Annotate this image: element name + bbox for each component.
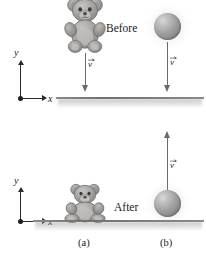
x-axis-before <box>21 98 43 100</box>
teddy-bear-before <box>63 0 107 56</box>
velocity-label-bear-before: v <box>88 60 92 69</box>
origin-marker-after <box>18 219 23 224</box>
velocity-arrow-head-ball-before <box>164 85 170 92</box>
velocity-label-ball-after: v <box>170 161 174 170</box>
x-axis-label-before: x <box>48 94 52 104</box>
velocity-arrow-shaft-ball-before <box>167 42 169 87</box>
y-axis-label-before: y <box>14 48 18 58</box>
ground-shadow-before <box>58 99 202 108</box>
ball-after <box>154 190 181 217</box>
ball-before <box>154 13 181 40</box>
phase-label-before: Before <box>106 23 137 35</box>
velocity-label-text: v <box>170 57 174 67</box>
velocity-label-text: v <box>170 160 174 170</box>
velocity-arrow-shaft-bear-before <box>85 53 87 87</box>
teddy-bear-after <box>63 183 107 223</box>
velocity-arrow-head-bear-before <box>82 85 88 92</box>
ground-shadow-after <box>35 222 202 231</box>
caption-a: (a) <box>78 238 90 249</box>
velocity-label-ball-before: v <box>170 58 174 67</box>
y-axis-after <box>20 192 22 221</box>
caption-b: (b) <box>160 238 172 249</box>
velocity-label-text: v <box>88 59 92 69</box>
vector-overbar-icon <box>170 159 177 162</box>
phase-label-after: After <box>114 202 138 214</box>
vector-overbar-icon <box>170 56 177 59</box>
y-axis-label-after: y <box>14 176 18 186</box>
vector-overbar-icon <box>88 58 95 61</box>
x-axis-arrowhead-before <box>42 95 47 101</box>
y-axis-before <box>20 65 22 98</box>
physics-figure: Before v v y x v <box>0 0 206 255</box>
origin-marker-before <box>18 96 23 101</box>
